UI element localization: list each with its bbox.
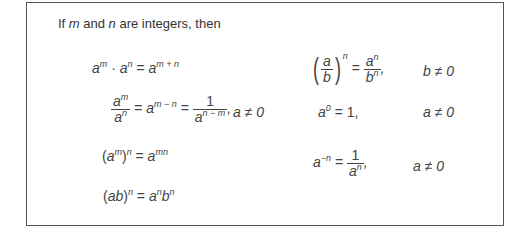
quotient-rule: aman = am − n = 1an − m, — [111, 94, 231, 125]
var-n: n — [109, 16, 116, 31]
power-of-power-rule: (am)n = amn — [102, 148, 168, 164]
zero-exponent-rule: a0 = 1, — [318, 104, 358, 120]
product-rule: am · an = am + n — [92, 60, 179, 76]
intro-mid: and — [80, 16, 109, 31]
zero-exponent-condition: a ≠ 0 — [423, 104, 454, 120]
intro-prefix: If — [58, 16, 69, 31]
power-of-quotient-condition: b ≠ 0 — [423, 63, 454, 79]
negative-exponent-rule: a−n = 1an, — [313, 148, 368, 179]
intro-text: If m and n are integers, then — [58, 16, 221, 31]
intro-suffix: are integers, then — [116, 16, 221, 31]
negative-exponent-condition: a ≠ 0 — [413, 158, 444, 174]
power-of-quotient-rule: (ab)n = anbn, — [311, 52, 384, 86]
var-m: m — [69, 16, 80, 31]
power-of-product-rule: (ab)n = anbn — [103, 188, 175, 204]
quotient-condition: a ≠ 0 — [233, 104, 264, 120]
